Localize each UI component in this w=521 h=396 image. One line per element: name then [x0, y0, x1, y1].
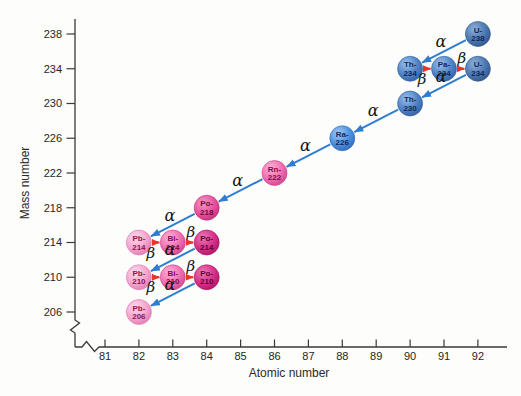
- x-tick-label: 83: [167, 350, 179, 362]
- beta-symbol-label: β: [146, 278, 156, 296]
- alpha-symbol-label: α: [164, 206, 175, 225]
- beta-symbol-label: β: [417, 70, 427, 88]
- y-axis-title: Mass number: [18, 147, 32, 220]
- y-tick-label: 234: [44, 63, 62, 75]
- nuclide-mass-text: 210: [132, 277, 146, 286]
- alpha-symbol-label: α: [368, 101, 379, 120]
- x-tick-label: 85: [234, 350, 246, 362]
- y-tick-label: 218: [44, 202, 62, 214]
- beta-symbol-label: β: [146, 244, 156, 262]
- decay-chart: 8182838485868788899091922062102142182222…: [0, 0, 521, 396]
- beta-symbol-label: β: [457, 49, 467, 67]
- nuclide-mass-text: 230: [403, 104, 417, 113]
- x-tick-label: 84: [201, 350, 213, 362]
- nuclide-rn-222: Rn-222: [262, 161, 287, 186]
- nuclide-mass-text: 210: [200, 277, 214, 286]
- nuclide-ra-226: Ra-226: [330, 126, 355, 151]
- nuclide-po-218: Po-218: [194, 195, 219, 220]
- x-tick-label: 90: [404, 350, 416, 362]
- decay-series-figure: 8182838485868788899091922062102142182222…: [0, 0, 521, 396]
- y-tick-label: 230: [44, 97, 62, 109]
- nuclide-mass-text: 214: [200, 243, 214, 252]
- alpha-symbol-label: α: [436, 67, 447, 86]
- x-tick-label: 92: [472, 350, 484, 362]
- y-tick-label: 210: [44, 271, 62, 283]
- x-tick-label: 81: [99, 350, 111, 362]
- nuclide-mass-text: 238: [471, 34, 485, 43]
- x-tick-label: 86: [268, 350, 280, 362]
- x-tick-label: 91: [438, 350, 450, 362]
- beta-symbol-label: β: [185, 257, 195, 275]
- nuclide-mass-text: 214: [132, 243, 146, 252]
- alpha-symbol-label: α: [164, 240, 175, 259]
- beta-symbol-label: β: [185, 223, 195, 241]
- nuclide-u-238: U-238: [465, 22, 490, 47]
- y-tick-label: 206: [44, 306, 62, 318]
- decay-type-labels: αββαααααββαββα: [146, 32, 467, 296]
- nuclide-mass-text: 222: [268, 173, 282, 182]
- y-tick-label: 238: [44, 28, 62, 40]
- nuclide-mass-text: 234: [471, 69, 485, 78]
- nuclide-mass-text: 226: [336, 138, 350, 147]
- alpha-symbol-label: α: [436, 32, 447, 51]
- alpha-symbol-label: α: [232, 171, 243, 190]
- y-tick-label: 222: [44, 167, 62, 179]
- x-tick-label: 87: [302, 350, 314, 362]
- x-axis-title: Atomic number: [249, 366, 330, 380]
- nuclide-po-214: Po-214: [194, 230, 219, 255]
- nuclide-th-230: Th-230: [398, 91, 423, 116]
- nuclide-mass-text: 234: [403, 69, 417, 78]
- nuclide-u-234: U-234: [465, 56, 490, 81]
- nuclide-pb-206: Pb-206: [126, 300, 151, 325]
- x-tick-label: 89: [370, 350, 382, 362]
- nuclide-mass-text: 206: [132, 312, 146, 321]
- nuclide-po-210: Po-210: [194, 265, 219, 290]
- y-tick-label: 226: [44, 132, 62, 144]
- alpha-symbol-label: α: [300, 136, 311, 155]
- nuclide-mass-text: 218: [200, 208, 214, 217]
- alpha-symbol-label: α: [164, 275, 175, 294]
- x-tick-label: 82: [133, 350, 145, 362]
- y-tick-label: 214: [44, 236, 62, 248]
- x-tick-label: 88: [336, 350, 348, 362]
